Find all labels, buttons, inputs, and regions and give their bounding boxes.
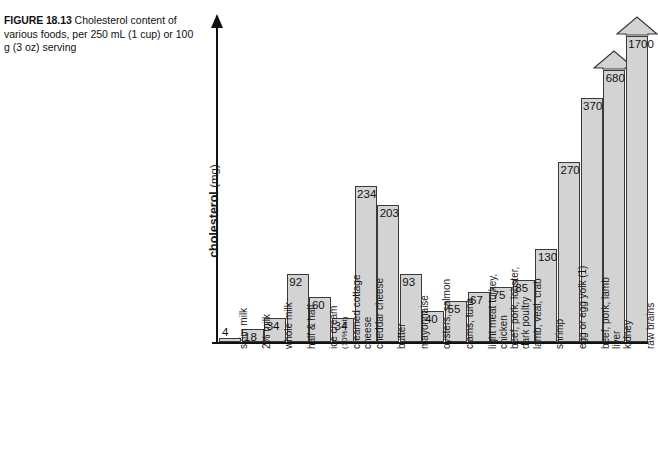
x-label-line2: cheese: [363, 275, 374, 350]
broken-scale-arrow-icon: [616, 16, 658, 36]
x-label-line1: egg or egg yolk (1): [578, 266, 589, 349]
x-label-8: butter: [397, 323, 408, 349]
x-label-13: beef, pork, lobster,dark poultry: [510, 267, 531, 349]
x-label-16: egg or egg yolk (1): [578, 266, 589, 349]
x-label-line1: raw brains: [646, 303, 657, 349]
x-label-10: oysters, salmon: [442, 279, 453, 349]
x-label-line1: creamed cottage: [352, 275, 363, 350]
x-label-line1: lamb, veal, crab: [533, 278, 544, 349]
bar-value-label: 4: [222, 326, 228, 338]
x-label-line1: whole milk: [284, 302, 295, 349]
x-label-line1: cheddar cheese: [375, 278, 386, 349]
x-label-4: half & half: [307, 305, 318, 349]
bar-value-label: 234: [357, 188, 376, 200]
x-label-1: skim milk: [239, 308, 250, 349]
bar-rect: 1700: [626, 36, 648, 342]
figure-caption: FIGURE 18.13 Cholesterol content of vari…: [4, 14, 194, 55]
x-label-2: 2% milk: [262, 314, 273, 349]
x-label-17: beef, pork, lambliver: [601, 277, 622, 349]
figure-number: FIGURE 18.13: [4, 14, 72, 26]
bar-value-label: 1700: [628, 38, 654, 50]
x-label-11: clams, tuna: [465, 298, 476, 349]
x-label-line1: light meat turkey,: [488, 274, 499, 349]
x-label-line1: ice cream: [329, 306, 340, 349]
x-label-line1: half & half: [307, 305, 318, 349]
x-label-12: light meat turkey,chicken: [488, 274, 509, 349]
x-label-line1: mayonnaise: [420, 295, 431, 349]
x-label-line1: 2% milk: [262, 314, 273, 349]
x-label-19: raw brains: [646, 303, 657, 349]
x-label-line2: dark poultry: [521, 267, 532, 349]
x-label-line1: butter: [397, 323, 408, 349]
x-label-line2: chicken: [498, 274, 509, 349]
x-label-9: mayonnaise: [420, 295, 431, 349]
x-label-18: kidney: [623, 320, 634, 349]
bar-value-label: 93: [402, 276, 415, 288]
x-label-line2: liver: [611, 277, 622, 349]
bar-value-label: 370: [583, 100, 602, 112]
x-label-line1: beef, pork, lamb: [601, 277, 612, 349]
x-axis-labels: skim milk2% milkwhole milkhalf & halfice…: [208, 346, 648, 451]
bar-value-label: 680: [606, 72, 625, 84]
x-label-6: creamed cottagecheese: [352, 275, 373, 350]
x-label-15: shrimp: [555, 319, 566, 349]
bar-value-label: 92: [289, 276, 302, 288]
x-label-3: whole milk: [284, 302, 295, 349]
x-label-line1: kidney: [623, 320, 634, 349]
x-label-line1: shrimp: [555, 319, 566, 349]
x-label-line2: (10% fat): [340, 306, 351, 349]
x-label-line1: skim milk: [239, 308, 250, 349]
x-label-14: lamb, veal, crab: [533, 278, 544, 349]
bar-value-label: 270: [561, 164, 580, 176]
bar-value-label: 130: [538, 251, 557, 263]
bar-19: 1700: [626, 36, 648, 342]
bar-chart: cholesterol (mg) 41834926034234203934055…: [208, 8, 648, 338]
x-label-line1: oysters, salmon: [442, 279, 453, 349]
bar-value-label: 203: [380, 207, 399, 219]
x-label-5: ice cream(10% fat): [329, 306, 350, 349]
x-label-line1: clams, tuna: [465, 298, 476, 349]
x-label-7: cheddar cheese: [375, 278, 386, 349]
